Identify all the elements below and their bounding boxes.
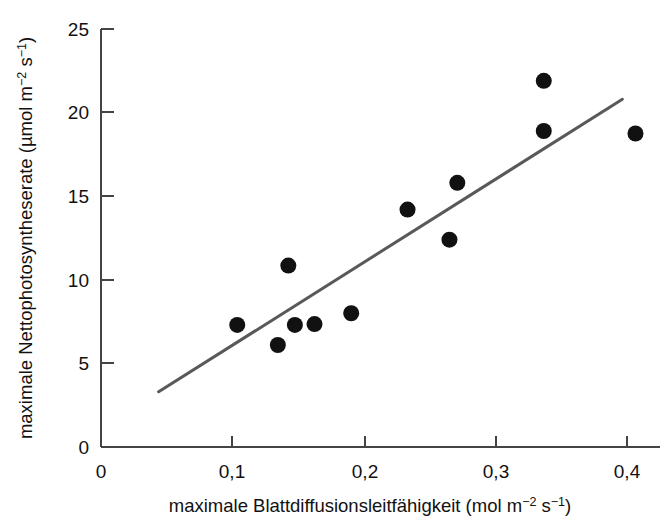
x-axis-title-sup-m: −2: [522, 495, 536, 509]
data-point: [287, 317, 303, 333]
x-axis-title-main: maximale Blattdiffusionsleitfähigkeit (: [169, 495, 473, 516]
data-point: [627, 126, 643, 142]
y-axis-title-close: ): [15, 37, 36, 43]
data-point: [449, 175, 465, 191]
y-axis-title-unit-mid: s: [15, 57, 36, 71]
data-point: [441, 232, 457, 248]
data-point: [536, 123, 552, 139]
y-ticklabel-0: 0: [78, 437, 89, 458]
svg-text:maximale Blattdiffusionsleitfä: maximale Blattdiffusionsleitfähigkeit (m…: [169, 495, 571, 516]
y-axis-title-sup-s: −1: [15, 43, 29, 57]
y-ticklabel-10: 10: [68, 270, 89, 291]
y-ticklabel-25: 25: [68, 19, 89, 40]
data-point: [270, 337, 286, 353]
x-ticklabel-0.4: 0,4: [614, 461, 641, 482]
y-axis-title-unit: µmol m: [15, 86, 36, 147]
x-axis-title-close: ): [565, 495, 571, 516]
svg-text:maximale Nettophotosyntheserat: maximale Nettophotosyntheserate (µmol m−…: [15, 37, 36, 439]
y-axis-title-main: maximale Nettophotosyntheserate (: [15, 146, 36, 439]
x-axis-title-unit-mid: s: [536, 495, 550, 516]
y-ticklabel-5: 5: [78, 353, 89, 374]
data-point: [343, 305, 359, 321]
data-point: [400, 202, 416, 218]
x-ticklabel-0: 0: [96, 461, 107, 482]
scatter-chart: 25 20 15 10 5 0 0 0,1 0,2 0,3 0,4 maxima…: [0, 0, 667, 527]
data-point: [280, 258, 296, 274]
x-ticklabel-0.3: 0,3: [483, 461, 509, 482]
y-axis-title-sup-m: −2: [15, 72, 29, 86]
x-axis-title-unit: mol m: [472, 495, 522, 516]
x-ticklabel-0.1: 0,1: [219, 461, 245, 482]
x-axis-title: maximale Blattdiffusionsleitfähigkeit (m…: [169, 495, 571, 516]
y-ticklabel-15: 15: [68, 186, 89, 207]
y-ticklabel-20: 20: [68, 102, 89, 123]
x-axis-title-sup-s: −1: [551, 495, 565, 509]
data-point: [307, 316, 323, 332]
data-point: [536, 73, 552, 89]
data-point: [229, 317, 245, 333]
y-axis-title: maximale Nettophotosyntheserate (µmol m−…: [15, 37, 36, 439]
x-ticklabel-0.2: 0,2: [352, 461, 378, 482]
